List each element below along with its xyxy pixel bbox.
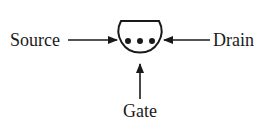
gate-label: Gate [123,101,157,121]
device-body [119,21,162,53]
drain-label: Drain [213,30,254,50]
dot-1 [125,38,131,44]
transistor-diagram: Source Drain Gate [0,0,265,129]
source-label: Source [10,30,60,50]
dot-3 [149,38,155,44]
device-dots [125,38,155,44]
dot-2 [137,38,143,44]
